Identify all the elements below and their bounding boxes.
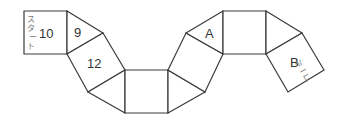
- board-diagram: 10 9 12 A B ス タ ー ト ゴ ー ル: [0, 0, 340, 123]
- svg-text:ス: ス: [27, 15, 35, 24]
- start-square-label: 10: [39, 26, 53, 41]
- svg-text:タ: タ: [27, 24, 35, 33]
- svg-text:ト: ト: [27, 42, 35, 51]
- triangle-1-label: 9: [74, 25, 81, 40]
- square-3: [125, 70, 168, 113]
- square-2-label: 12: [87, 56, 101, 71]
- square-5: [223, 11, 266, 54]
- svg-text:ー: ー: [29, 33, 37, 42]
- triangle-4-label: A: [205, 26, 214, 41]
